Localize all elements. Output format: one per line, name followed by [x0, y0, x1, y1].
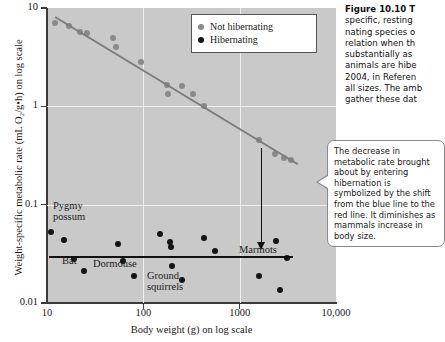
caption-line: all sizes. The amb [345, 83, 443, 94]
figure-caption: Figure 10.10 T specific, resting nating … [345, 4, 443, 106]
callout-tail [318, 176, 328, 188]
x-axis-title: Body weight (g) on log scale [47, 324, 336, 335]
caption-line: relation when th [345, 38, 443, 49]
data-point-not-hibernating [52, 20, 58, 26]
data-point-hibernating [131, 273, 137, 279]
annotation-bat: Bat [62, 255, 77, 266]
decrease-arrow-head [257, 242, 265, 250]
gridline-horizontal [47, 205, 336, 206]
caption-line: substantially as [345, 49, 443, 60]
legend-dot-black [198, 37, 204, 43]
data-point-not-hibernating [110, 35, 116, 41]
hibernating-trendline [49, 256, 293, 258]
annotation-ground-squirrels: Ground squirrels [147, 270, 183, 292]
data-point-hibernating [168, 244, 174, 250]
data-point-hibernating [273, 238, 279, 244]
annotation-dormouse: Dormouse [93, 258, 137, 269]
caption-line: specific, resting [345, 15, 443, 26]
y-tick-label: 10 [0, 2, 38, 13]
caption-line: animals are hibe [345, 60, 443, 71]
legend-item-hibernating: Hibernating [198, 34, 310, 45]
x-tick-label: 1000 [210, 308, 270, 319]
legend-dot-gray [198, 24, 204, 30]
data-point-hibernating [277, 287, 283, 293]
caption-body: specific, resting nating species orelati… [345, 15, 443, 105]
legend-item-not-hibernating: Not hibernating [198, 21, 310, 32]
callout-box: The decrease in metabolic rate brought a… [327, 140, 445, 247]
data-point-hibernating [169, 263, 175, 269]
data-point-hibernating [81, 268, 87, 274]
y-axis-line [46, 8, 48, 304]
x-tick-label: 10,000 [306, 308, 366, 319]
data-point-hibernating [256, 273, 262, 279]
y-tick-mark [41, 7, 47, 9]
caption-line: 2004, in Referen [345, 72, 443, 83]
figure-panel: 1010.10.0110100100010,000 Not hibernatin… [0, 0, 340, 342]
legend-label-not-hibernating: Not hibernating [210, 21, 273, 32]
data-point-hibernating [48, 229, 54, 235]
gridline-vertical [143, 8, 144, 303]
x-tick-label: 10 [17, 308, 77, 319]
y-axis-title: Weight-specific metabolic rate (mL O₂/g•… [13, 18, 24, 298]
caption-title: Figure 10.10 T [345, 4, 443, 15]
data-point-hibernating [61, 237, 67, 243]
gridline-horizontal [47, 106, 336, 107]
x-tick-label: 100 [113, 308, 173, 319]
decrease-arrow-shaft [261, 148, 262, 244]
data-point-not-hibernating [165, 91, 171, 97]
data-point-not-hibernating [190, 91, 196, 97]
x-axis-line [46, 302, 337, 304]
legend-label-hibernating: Hibernating [210, 34, 258, 45]
y-tick-mark [41, 302, 47, 304]
y-tick-label: 0.01 [0, 297, 38, 308]
caption-line: nating species o [345, 27, 443, 38]
legend: Not hibernating Hibernating [191, 14, 317, 53]
annotation-pygmy-possum: Pygmy possum [53, 200, 85, 222]
caption-line: gather these dat [345, 94, 443, 105]
